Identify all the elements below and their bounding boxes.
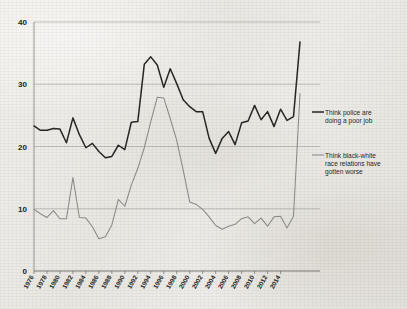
line-chart: 0102030401976197819801982198419861988199…	[0, 0, 407, 309]
legend-label-1-line-0: Think black-white	[325, 152, 376, 159]
x-axis-tick-1982: 1982	[61, 274, 74, 290]
y-axis-tick-40: 40	[18, 18, 27, 27]
x-axis-tick-1978: 1978	[35, 274, 48, 290]
x-axis-tick-2006: 2006	[216, 274, 229, 290]
x-axis-tick-2008: 2008	[229, 274, 242, 290]
x-axis-tick-2010: 2010	[242, 274, 255, 290]
legend-label-1-line-1: race relations have	[325, 160, 381, 167]
x-axis-tick-1988: 1988	[100, 274, 113, 290]
x-axis-tick-2012: 2012	[255, 274, 268, 290]
x-axis-tick-1996: 1996	[151, 274, 164, 290]
x-axis-tick-1986: 1986	[87, 274, 100, 290]
x-axis-tick-1998: 1998	[164, 274, 177, 290]
x-axis-tick-2000: 2000	[177, 274, 190, 290]
x-axis-tick-1984: 1984	[74, 274, 87, 290]
y-axis-tick-10: 10	[18, 205, 27, 214]
y-axis-tick-30: 30	[18, 80, 27, 89]
x-axis-tick-2004: 2004	[203, 274, 216, 290]
x-axis-tick-2014: 2014	[268, 274, 281, 290]
x-axis-tick-2002: 2002	[190, 274, 203, 290]
legend-label-1-line-2: gotten worse	[325, 168, 363, 176]
legend-label-0-line-1: doing a poor job	[325, 117, 373, 125]
series-line-1	[34, 94, 300, 239]
legend-label-0-line-0: Think police are	[325, 109, 372, 117]
x-axis-tick-1992: 1992	[125, 274, 138, 290]
x-axis-tick-1994: 1994	[138, 274, 151, 290]
y-axis-tick-20: 20	[18, 143, 27, 152]
series-line-0	[34, 42, 300, 158]
chart-canvas: 0102030401976197819801982198419861988199…	[0, 0, 407, 309]
x-axis-tick-1980: 1980	[48, 274, 61, 290]
x-axis-tick-1990: 1990	[113, 274, 126, 290]
y-axis-tick-0: 0	[23, 267, 28, 276]
x-axis-tick-1976: 1976	[22, 274, 35, 290]
